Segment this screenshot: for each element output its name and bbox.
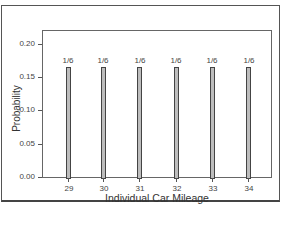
y-tick	[38, 177, 42, 178]
x-tick	[68, 178, 69, 182]
x-axis-title: Individual Car Mileage	[42, 192, 272, 204]
bar-label: 1/6	[58, 56, 78, 65]
x-tick	[103, 178, 104, 182]
x-tick	[248, 178, 249, 182]
bar-33	[210, 67, 215, 179]
y-tick	[38, 77, 42, 78]
bar-34	[246, 67, 251, 179]
y-tick-label: 0.05	[3, 139, 35, 148]
x-tick	[139, 178, 140, 182]
bar-31	[137, 67, 142, 179]
x-tick	[176, 178, 177, 182]
y-tick	[38, 44, 42, 45]
bar-label: 1/6	[239, 56, 259, 65]
y-tick-label: 0.20	[3, 39, 35, 48]
bar-30	[101, 67, 106, 179]
y-tick-label: 0.00	[3, 172, 35, 181]
y-tick	[38, 144, 42, 145]
y-tick-label: 0.15	[3, 72, 35, 81]
bar-label: 1/6	[130, 56, 150, 65]
bar-label: 1/6	[93, 56, 113, 65]
bar-label: 1/6	[166, 56, 186, 65]
x-tick	[212, 178, 213, 182]
bar-29	[66, 67, 71, 179]
bar-32	[174, 67, 179, 179]
y-tick	[38, 110, 42, 111]
y-tick-label: 0.10	[3, 105, 35, 114]
plot-area	[42, 30, 272, 178]
bar-label: 1/6	[202, 56, 222, 65]
